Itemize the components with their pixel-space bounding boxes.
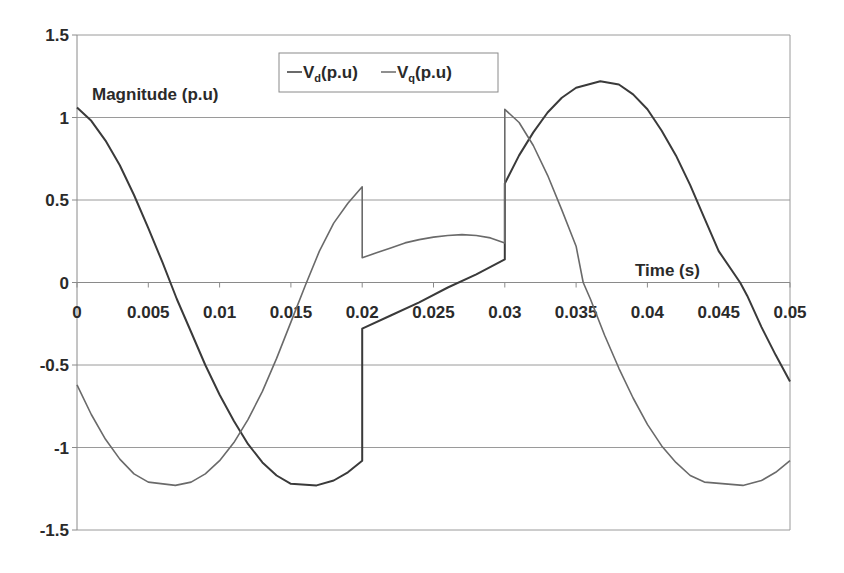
- x-tick-label: 0.04: [631, 303, 665, 322]
- legend: Vd(p.u) Vq(p.u): [279, 53, 498, 92]
- x-tick-label: 0: [72, 303, 81, 322]
- x-tick-label: 0.035: [555, 303, 598, 322]
- y-axis-title: Magnitude (p.u): [92, 85, 219, 104]
- line-chart: 1.510.50-0.5-1-1.5 00.0050.010.0150.020.…: [0, 0, 844, 573]
- x-tick-label: 0.05: [773, 303, 806, 322]
- y-tick-label: 0: [60, 274, 69, 293]
- y-tick-label: -1.5: [40, 521, 69, 540]
- x-tick-label: 0.03: [488, 303, 521, 322]
- legend-label-vd: Vd(p.u): [303, 63, 358, 84]
- x-axis-ticks: 00.0050.010.0150.020.0250.030.0350.040.0…: [72, 283, 806, 322]
- x-tick-label: 0.025: [412, 303, 455, 322]
- series-line-vqpu: [77, 109, 790, 485]
- y-tick-label: -1: [54, 439, 69, 458]
- y-tick-label: 1.5: [45, 26, 69, 45]
- legend-label-vq: Vq(p.u): [397, 63, 452, 84]
- x-tick-label: 0.01: [203, 303, 236, 322]
- y-axis-ticks: 1.510.50-0.5-1-1.5: [40, 26, 77, 540]
- x-tick-label: 0.02: [346, 303, 379, 322]
- x-tick-label: 0.015: [270, 303, 313, 322]
- y-tick-label: 1: [60, 109, 69, 128]
- x-tick-label: 0.045: [697, 303, 740, 322]
- y-tick-label: 0.5: [45, 191, 69, 210]
- y-tick-label: -0.5: [40, 356, 69, 375]
- x-tick-label: 0.005: [127, 303, 170, 322]
- x-axis-title: Time (s): [635, 261, 700, 280]
